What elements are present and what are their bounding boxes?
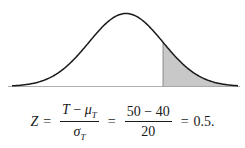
equals-sign: = — [181, 114, 189, 130]
normal-curve-plot — [0, 0, 245, 92]
z-result: 0.5. — [194, 114, 215, 130]
standardization-fraction: T − μT σT — [60, 102, 99, 142]
equals-sign: = — [43, 114, 51, 130]
numeric-fraction: 50 − 40 20 — [125, 104, 172, 140]
z-score-formula: Z = T − μT σT = 50 − 40 20 = 0.5. — [0, 96, 245, 148]
equals-sign: = — [108, 114, 116, 130]
numeric-denominator: 20 — [141, 122, 155, 140]
fraction-denominator: σT — [74, 122, 86, 142]
numeric-numerator: 50 − 40 — [125, 104, 172, 122]
shaded-tail-region — [163, 42, 238, 86]
fraction-numerator: T − μT — [60, 102, 99, 122]
z-symbol: Z — [30, 114, 38, 130]
normal-curve-svg — [0, 0, 245, 92]
bell-curve — [12, 14, 238, 86]
